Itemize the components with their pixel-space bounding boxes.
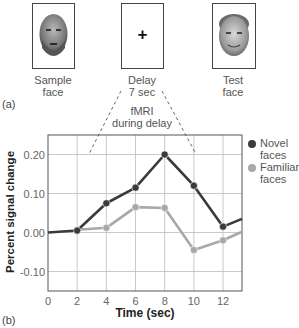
data-point-marker (74, 226, 81, 233)
chart-axes (48, 135, 242, 291)
panel-a-label: (a) (2, 98, 15, 110)
caption-line: Sample (18, 74, 88, 86)
sample-face-image (33, 4, 74, 68)
data-point-marker (190, 246, 197, 253)
y-axis-label: Percent signal change (4, 151, 16, 273)
y-tick-label: 0.10 (24, 188, 45, 200)
y-tick-label: 0.00 (24, 227, 45, 239)
legend-label: faces (260, 173, 287, 185)
fmri-note: fMRI during delay (107, 105, 177, 129)
x-tick-label: 6 (132, 295, 138, 307)
data-point-marker (103, 200, 110, 207)
y-tick-label: 0.20 (24, 149, 45, 161)
sample-face-frame (32, 3, 75, 69)
legend-marker-icon (248, 140, 256, 148)
legend-label: faces (260, 149, 287, 161)
delay-caption: Delay 7 sec (107, 74, 177, 98)
chart-legend: NovelfacesFamiliarfaces (248, 137, 299, 185)
x-tick-label: 12 (217, 295, 229, 307)
series-line (77, 207, 242, 250)
test-face-caption: Test face (198, 74, 268, 98)
fixation-cross: + (122, 26, 163, 44)
fmri-note-line: fMRI (107, 105, 177, 117)
x-tick-label: 10 (188, 295, 200, 307)
data-point-marker (161, 151, 168, 158)
chart-grid (48, 135, 242, 291)
data-point-marker (190, 182, 197, 189)
data-point-marker (74, 227, 81, 234)
caption-line: 7 sec (107, 86, 177, 98)
fmri-note-line: during delay (107, 117, 177, 129)
series-line (48, 155, 242, 233)
caption-line: face (198, 86, 268, 98)
panel-b-label: (b) (2, 314, 15, 326)
data-point-marker (219, 223, 226, 230)
delay-frame: + (121, 3, 164, 69)
caption-line: Delay (107, 74, 177, 86)
legend-marker-icon (248, 164, 256, 172)
plot-border (48, 135, 242, 291)
test-face-image (213, 4, 255, 68)
test-face-frame (212, 3, 256, 69)
y-tick-label: -0.10 (20, 266, 45, 278)
sample-face-caption: Sample face (18, 74, 88, 98)
chart-series (48, 151, 242, 254)
data-point-marker (132, 184, 139, 191)
chart-ticks: 0246810120.200.100.00-0.10 (20, 149, 229, 308)
x-tick-label: 8 (162, 295, 168, 307)
data-point-marker (219, 237, 226, 244)
data-point-marker (132, 204, 139, 211)
caption-line: Test (198, 74, 268, 86)
x-axis-label: Time (sec) (115, 306, 174, 320)
x-tick-label: 2 (74, 295, 80, 307)
data-point-marker (161, 204, 168, 211)
legend-label: Novel (260, 137, 288, 149)
x-tick-label: 4 (103, 295, 109, 307)
data-point-marker (103, 224, 110, 231)
x-tick-label: 0 (45, 295, 51, 307)
legend-label: Familiar (260, 161, 299, 173)
caption-line: face (18, 86, 88, 98)
